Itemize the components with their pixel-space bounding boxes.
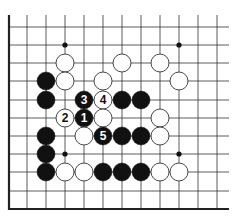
black-stone bbox=[37, 72, 55, 90]
black-stone bbox=[37, 91, 55, 109]
white-stone bbox=[75, 163, 93, 181]
white-stone bbox=[170, 163, 188, 181]
black-stone-3: 3 bbox=[75, 91, 93, 109]
move-number: 4 bbox=[100, 93, 107, 107]
move-number: 1 bbox=[81, 111, 88, 125]
white-stone bbox=[151, 127, 169, 145]
white-stone-4: 4 bbox=[94, 91, 112, 109]
move-number: 2 bbox=[62, 111, 69, 125]
black-stone bbox=[113, 91, 131, 109]
move-number: 3 bbox=[81, 93, 88, 107]
black-stone bbox=[132, 91, 150, 109]
black-stone bbox=[94, 163, 112, 181]
white-stone bbox=[151, 109, 169, 127]
white-stone-2: 2 bbox=[56, 109, 74, 127]
white-stone bbox=[56, 163, 74, 181]
board-edges bbox=[8, 15, 229, 210]
star-point bbox=[176, 151, 181, 156]
black-stone bbox=[132, 163, 150, 181]
white-stone bbox=[170, 72, 188, 90]
black-stone bbox=[37, 145, 55, 163]
star-point bbox=[62, 151, 67, 156]
black-stone bbox=[37, 127, 55, 145]
black-stone bbox=[113, 127, 131, 145]
white-stone bbox=[56, 54, 74, 72]
white-stone bbox=[94, 109, 112, 127]
white-stone bbox=[94, 72, 112, 90]
move-number: 5 bbox=[100, 129, 107, 143]
black-stone bbox=[37, 163, 55, 181]
white-stone bbox=[151, 54, 169, 72]
white-stone bbox=[56, 72, 74, 90]
black-stone-1: 1 bbox=[75, 109, 93, 127]
stones: 34215 bbox=[37, 54, 188, 181]
white-stone bbox=[113, 54, 131, 72]
black-stone bbox=[132, 127, 150, 145]
white-stone bbox=[75, 127, 93, 145]
star-point bbox=[62, 42, 67, 47]
black-stone bbox=[113, 163, 131, 181]
black-stone-5: 5 bbox=[94, 127, 112, 145]
star-point bbox=[176, 42, 181, 47]
white-stone bbox=[151, 163, 169, 181]
go-board: 34215 bbox=[0, 0, 234, 216]
